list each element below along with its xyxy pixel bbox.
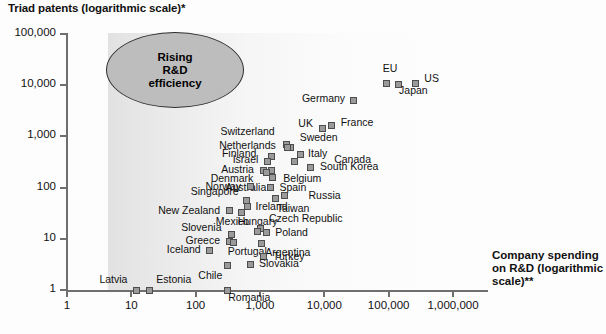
x-tick-label-1000000: 1,000,000	[427, 299, 478, 311]
y-tick-100	[60, 187, 68, 189]
y-axis-line	[66, 33, 68, 291]
data-point-label: Iceland	[167, 244, 201, 255]
data-point-marker[interactable]	[226, 207, 233, 214]
data-point-marker[interactable]	[264, 158, 271, 165]
data-point-label: Ireland	[256, 201, 288, 212]
data-point-label: EU	[383, 63, 398, 74]
data-point-marker[interactable]	[258, 240, 265, 247]
x-tick-1	[66, 290, 68, 297]
data-point-label: New Zealand	[158, 205, 220, 216]
data-point-label: Latvia	[99, 274, 127, 285]
data-point-marker[interactable]	[350, 97, 357, 104]
scatter-chart: Triad patents (logarithmic scale)* Risin…	[0, 0, 606, 334]
x-tick-label-1: 1	[64, 299, 70, 311]
annotation-line-1: Rising	[157, 51, 192, 63]
data-point-label: Slovakia	[259, 258, 299, 269]
data-point-marker[interactable]	[247, 261, 254, 268]
data-point-marker[interactable]	[267, 184, 274, 191]
x-axis-line	[66, 290, 488, 292]
annotation-line-3: efficiency	[148, 77, 201, 89]
data-point-marker[interactable]	[247, 183, 254, 190]
data-point-label: Chile	[198, 270, 222, 281]
data-point-marker[interactable]	[307, 164, 314, 171]
annotation-line-2: R&D	[163, 64, 188, 76]
x-tick-label-100000: 100,000	[368, 299, 410, 311]
x-tick-label-10: 10	[125, 299, 138, 311]
data-point-marker[interactable]	[281, 192, 288, 199]
data-point-label: Slovenia	[181, 222, 221, 233]
data-point-label: Sweden	[300, 132, 338, 143]
x-tick-label-100: 100	[186, 299, 205, 311]
x-tick-label-10000: 10,000	[307, 299, 342, 311]
annotation-text: Rising R&D efficiency	[148, 51, 201, 90]
data-point-label: Italy	[308, 148, 327, 159]
y-tick-10	[60, 238, 68, 240]
data-point-marker[interactable]	[133, 287, 140, 294]
y-tick-label-100: 100	[0, 180, 56, 192]
x-tick-10000	[323, 290, 325, 297]
y-tick-label-10: 10	[0, 231, 56, 243]
data-point-marker[interactable]	[383, 80, 390, 87]
data-point-label: Singapore	[191, 186, 239, 197]
data-point-marker[interactable]	[206, 247, 213, 254]
data-point-label: Estonia	[156, 274, 191, 285]
data-point-marker[interactable]	[146, 287, 153, 294]
x-axis-title: Company spending on R&D (logarithmic sca…	[492, 249, 604, 288]
data-point-marker[interactable]	[269, 174, 276, 181]
annotation-callout: Rising R&D efficiency	[106, 32, 244, 108]
x-tick-100	[195, 290, 197, 297]
data-point-label: UK	[298, 118, 313, 129]
data-point-marker[interactable]	[224, 262, 231, 269]
y-tick-label-1: 1	[0, 282, 56, 294]
data-point-label: Romania	[228, 292, 270, 303]
y-tick-100000	[60, 33, 68, 35]
y-tick-label-10000: 10,000	[0, 77, 56, 89]
y-axis-title: Triad patents (logarithmic scale)*	[8, 2, 185, 14]
data-point-marker[interactable]	[263, 229, 270, 236]
y-tick-1000	[60, 135, 68, 137]
data-point-label: Spain	[279, 182, 306, 193]
data-point-label: South Korea	[320, 161, 378, 172]
data-point-marker[interactable]	[328, 122, 335, 129]
data-point-label: Poland	[275, 227, 308, 238]
y-tick-label-100000: 100,000	[0, 26, 56, 38]
data-point-label: Japan	[399, 85, 428, 96]
data-point-label: France	[341, 117, 374, 128]
x-tick-100000	[388, 290, 390, 297]
data-point-marker[interactable]	[284, 144, 291, 151]
data-point-marker[interactable]	[291, 158, 298, 165]
y-tick-10000	[60, 84, 68, 86]
data-point-label: US	[424, 73, 439, 84]
data-point-marker[interactable]	[254, 228, 261, 235]
data-point-label: Russia	[308, 190, 340, 201]
data-point-label: Switzerland	[220, 126, 274, 137]
y-tick-label-1000: 1,000	[0, 128, 56, 140]
data-point-label: Czech Republic	[269, 213, 343, 224]
data-point-label: Germany	[302, 93, 345, 104]
x-tick-1000000	[452, 290, 454, 297]
